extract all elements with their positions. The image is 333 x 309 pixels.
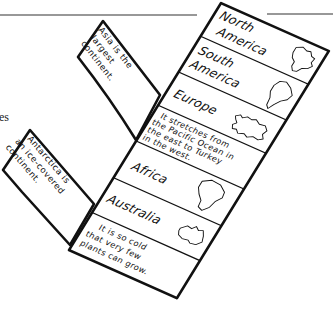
foldable-figure: es Asia is the largest continent. Antarc… [0, 0, 333, 309]
antarctica-flap: Antarctica is an ice-covered continent. [3, 128, 94, 245]
margin-text-fragment: es [0, 110, 9, 124]
